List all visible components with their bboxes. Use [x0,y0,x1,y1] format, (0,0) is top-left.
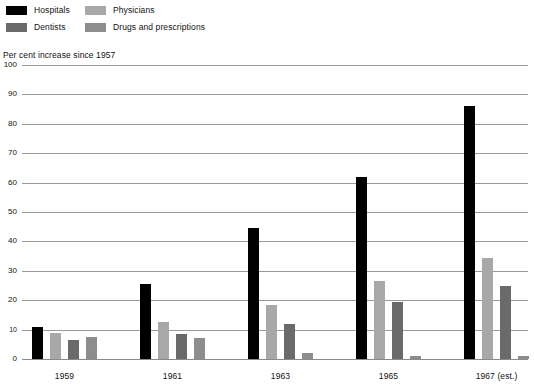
gridline-0 [22,359,528,360]
bar-1961-hospitals [140,284,151,359]
bar-1961-physicians [158,322,169,359]
y-axis-tick-90: 90 [0,90,17,98]
gridline-50 [22,212,528,213]
legend-item-dentists: Dentists [6,23,66,32]
y-axis-tick-80: 80 [0,120,17,128]
legend-item-drugs: Drugs and prescriptions [85,23,205,32]
bar-1965-drugs [410,356,421,359]
y-axis-tick-100: 100 [0,61,17,69]
y-axis-tick-20: 20 [0,296,17,304]
bar-1959-physicians [50,333,61,359]
bar-1965-physicians [374,281,385,359]
y-axis-tick-70: 70 [0,149,17,157]
legend-swatch-hospitals [6,6,27,15]
gridline-80 [22,124,528,125]
legend-label-physicians: Physicians [113,6,155,15]
legend-label-dentists: Dentists [34,23,66,32]
x-axis-label-1963: 1963 [228,371,333,381]
bar-1963-physicians [266,305,277,359]
bar-1967-est--hospitals [464,106,475,359]
gridline-100 [22,65,528,66]
y-axis-tick-60: 60 [0,179,17,187]
legend-label-drugs: Drugs and prescriptions [113,23,205,32]
bar-1959-dentists [68,340,79,359]
gridline-20 [22,300,528,301]
gridline-40 [22,241,528,242]
legend-swatch-drugs [85,23,106,32]
bar-1959-drugs [86,337,97,359]
bar-1963-dentists [284,324,295,359]
chart-plot-area: 0102030405060708090100195919611963196519… [0,60,534,385]
bar-1961-drugs [194,338,205,359]
bar-1963-hospitals [248,228,259,359]
bar-1967-est--drugs [518,356,529,359]
legend-item-physicians: Physicians [85,6,155,15]
gridline-60 [22,183,528,184]
y-axis-tick-10: 10 [0,326,17,334]
y-axis-tick-50: 50 [0,208,17,216]
bar-1959-hospitals [32,327,43,359]
x-axis-label-1961: 1961 [120,371,225,381]
x-axis-label-1965: 1965 [336,371,441,381]
gridline-70 [22,153,528,154]
bar-1965-dentists [392,302,403,359]
bar-1961-dentists [176,334,187,359]
legend-item-hospitals: Hospitals [6,6,70,15]
x-axis-label-1967-est-: 1967 (est.) [444,371,534,381]
legend-swatch-physicians [85,6,106,15]
y-axis-tick-0: 0 [0,355,17,363]
gridline-90 [22,94,528,95]
legend-label-hospitals: Hospitals [34,6,70,15]
chart-caption: Per cent increase since 1957 [3,50,115,60]
x-axis-label-1959: 1959 [12,371,117,381]
bar-1963-drugs [302,353,313,359]
bar-1965-hospitals [356,177,367,359]
y-axis-tick-30: 30 [0,267,17,275]
gridline-30 [22,271,528,272]
bar-1967-est--dentists [500,286,511,360]
legend-swatch-dentists [6,23,27,32]
y-axis-tick-40: 40 [0,237,17,245]
bar-1967-est--physicians [482,258,493,359]
chart-legend: Hospitals Physicians Dentists Drugs and … [6,6,306,40]
